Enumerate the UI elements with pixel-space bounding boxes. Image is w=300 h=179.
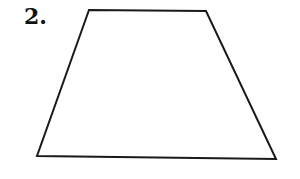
trapezoid-figure: [0, 0, 300, 179]
trapezoid-shape: [37, 10, 276, 159]
worksheet-canvas: 2.: [0, 0, 300, 179]
